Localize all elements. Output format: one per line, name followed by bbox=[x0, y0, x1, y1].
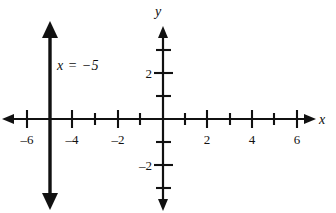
y-tick-label-neg2: –2 bbox=[128, 159, 152, 172]
x-tick-label-pos6: 6 bbox=[290, 133, 304, 146]
x-axis-label: x bbox=[319, 113, 325, 127]
x-tick-label-neg4: –4 bbox=[62, 133, 82, 146]
line-equation-label: x = −5 bbox=[57, 59, 99, 73]
vertical-line-top-arrowhead bbox=[42, 21, 58, 38]
y-axis-bottom-arrowhead bbox=[158, 199, 168, 211]
x-axis-left-arrowhead bbox=[2, 114, 14, 124]
x-axis-right-arrowhead bbox=[304, 114, 316, 124]
y-axis-top-arrowhead bbox=[158, 26, 168, 38]
vertical-line-bottom-arrowhead bbox=[42, 193, 58, 210]
y-tick-label-pos2: 2 bbox=[138, 67, 152, 80]
coordinate-plane-svg bbox=[0, 0, 336, 213]
line-x-equals-negative-5 bbox=[42, 21, 58, 210]
y-axis-label: y bbox=[155, 5, 161, 19]
x-tick-label-neg6: –6 bbox=[17, 133, 37, 146]
graph-figure: x y –6 –4 –2 2 4 6 2 –2 x = −5 bbox=[0, 0, 336, 213]
x-tick-label-neg2: –2 bbox=[108, 133, 128, 146]
x-tick-label-pos2: 2 bbox=[200, 133, 214, 146]
x-tick-label-pos4: 4 bbox=[245, 133, 259, 146]
